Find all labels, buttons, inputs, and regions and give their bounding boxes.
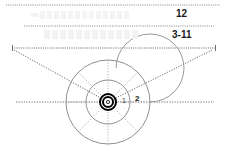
ghost-row-a: [40, 11, 129, 19]
ghost-cell: [108, 30, 114, 39]
bullseye-core: [106, 100, 109, 103]
ghost-cell: [89, 11, 94, 19]
ghost-cell: [76, 30, 82, 39]
ghost-arrow-icon: [31, 13, 39, 17]
diagram-vector-layer: [0, 0, 226, 159]
ghost-cell: [60, 30, 66, 39]
ghost-cell: [124, 11, 129, 19]
ghost-cell: [47, 11, 52, 19]
diagram-canvas: 12 3-11 1 2: [0, 0, 226, 159]
ghost-cell: [100, 30, 106, 39]
ghost-cell: [44, 30, 50, 39]
ring-label-2: 2: [135, 95, 139, 103]
target-spiral-ring: [116, 34, 184, 102]
ghost-cell: [84, 30, 90, 39]
ghost-cell: [96, 11, 101, 19]
ghost-cell: [54, 11, 59, 19]
ghost-cell: [68, 11, 73, 19]
ring-label-1: 1: [122, 97, 126, 104]
ghost-cell: [61, 11, 66, 19]
label-lower-value: 3-11: [172, 30, 191, 40]
ghost-cell: [116, 30, 122, 39]
cone-edge-right: [108, 50, 212, 102]
ghost-cell: [124, 30, 130, 39]
spoke-ne: [115, 72, 138, 95]
spoke-se: [115, 109, 138, 132]
ghost-cell: [110, 11, 115, 19]
ghost-cell: [52, 30, 58, 39]
ghost-cell: [40, 11, 45, 19]
cone-edge-left: [14, 50, 108, 102]
label-upper-value: 12: [176, 9, 187, 19]
spoke-sw: [78, 109, 101, 132]
ghost-cell: [103, 11, 108, 19]
ghost-cell: [68, 30, 74, 39]
ghost-row-b: [44, 30, 138, 39]
ghost-cell: [75, 11, 80, 19]
ghost-cell: [132, 30, 138, 39]
ghost-cell: [117, 11, 122, 19]
ghost-cell: [82, 11, 87, 19]
ghost-cell: [92, 30, 98, 39]
